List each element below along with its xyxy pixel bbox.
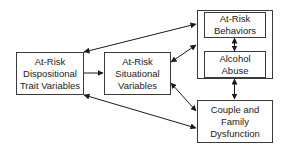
node-label-line: Variables	[115, 80, 159, 92]
arrow-situational-behaviors	[171, 45, 196, 62]
node-label-line: At-Risk	[214, 13, 256, 25]
node-label-line: Dispositional	[20, 68, 80, 80]
arrow-dispositional-couple	[84, 95, 196, 128]
node-label-line: Trait Variables	[20, 80, 80, 92]
node-label-line: Family	[210, 116, 260, 128]
node-label-line: Behaviors	[214, 25, 256, 37]
node-situational-variables: At-Risk Situational Variables	[104, 52, 171, 95]
node-couple-family-dysfunction: Couple and Family Dysfunction	[197, 100, 273, 143]
node-label-line: Alcohol	[219, 53, 250, 65]
node-label-line: Couple and	[210, 104, 260, 116]
node-alcohol-abuse: Alcohol Abuse	[204, 51, 266, 78]
node-label-line: Situational	[115, 68, 159, 80]
node-label-line: Abuse	[219, 65, 250, 77]
node-label-line: At-Risk	[115, 56, 159, 68]
arrow-dispositional-behaviors	[84, 24, 196, 52]
node-at-risk-behaviors: At-Risk Behaviors	[204, 12, 266, 38]
node-label-line: Dysfunction	[210, 128, 260, 140]
arrow-situational-couple	[171, 83, 196, 111]
node-dispositional-trait-variables: At-Risk Dispositional Trait Variables	[16, 52, 84, 95]
node-label-line: At-Risk	[20, 56, 80, 68]
